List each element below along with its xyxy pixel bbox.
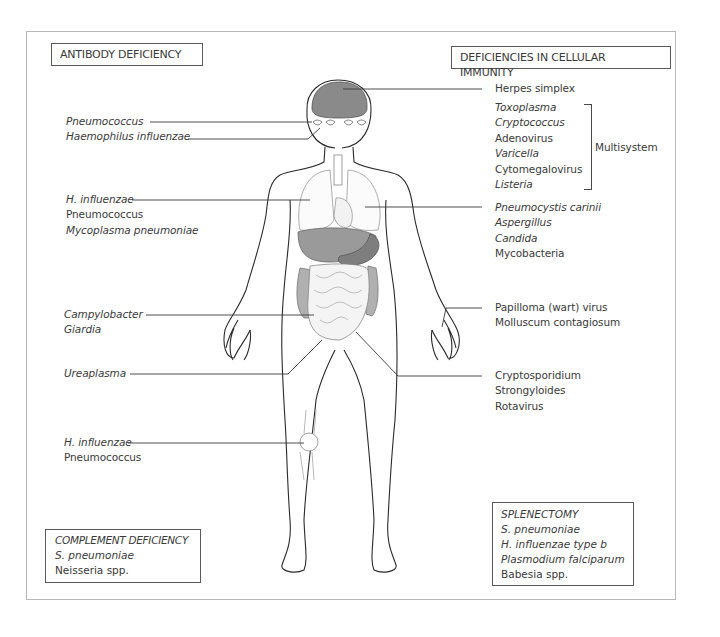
label-group-urogenital: Ureaplasma bbox=[64, 366, 126, 381]
label-mycoplasma-pneumoniae: Mycoplasma pneumoniae bbox=[66, 223, 198, 238]
label-group-multisystem: Toxoplasma Cryptococcus Adenovirus Varic… bbox=[495, 100, 582, 192]
label-group-brain: Herpes simplex bbox=[495, 81, 575, 96]
label-giardia: Giardia bbox=[64, 322, 143, 337]
label-campylobacter: Campylobacter bbox=[64, 307, 143, 322]
label-cryptosporidium: Cryptosporidium bbox=[495, 368, 581, 383]
label-neisseria-spp: Neisseria spp. bbox=[55, 563, 191, 578]
multisystem-text: Multisystem bbox=[595, 140, 658, 155]
label-strongyloides: Strongyloides bbox=[495, 383, 581, 398]
label-multisystem: Multisystem bbox=[595, 140, 658, 155]
splenectomy-box: SPLENECTOMY S. pneumoniae H. influenzae … bbox=[492, 502, 634, 586]
label-group-gut-opportunistic: Cryptosporidium Strongyloides Rotavirus bbox=[495, 368, 581, 414]
label-varicella: Varicella bbox=[495, 146, 582, 161]
label-listeria: Listeria bbox=[495, 177, 582, 192]
label-ureaplasma: Ureaplasma bbox=[64, 366, 126, 381]
label-group-skin: Papilloma (wart) virus Molluscum contagi… bbox=[495, 300, 620, 331]
label-group-joint-infections: H. influenzae Pneumococcus bbox=[64, 435, 141, 466]
label-group-gut-infections: Campylobacter Giardia bbox=[64, 307, 143, 338]
complement-deficiency-title: COMPLEMENT DEFICIENCY bbox=[55, 533, 191, 548]
label-mycobacteria: Mycobacteria bbox=[495, 246, 601, 261]
label-papilloma-virus: Papilloma (wart) virus bbox=[495, 300, 620, 315]
label-s-pneumoniae-splenectomy: S. pneumoniae bbox=[501, 522, 625, 537]
label-herpes-simplex: Herpes simplex bbox=[495, 81, 575, 96]
label-group-lung-opportunistic: Pneumocystis carinii Aspergillus Candida… bbox=[495, 200, 601, 262]
label-plasmodium-falciparum: Plasmodium falciparum bbox=[501, 552, 625, 567]
label-molluscum-contagiosum: Molluscum contagiosum bbox=[495, 315, 620, 330]
label-group-lung-infections: H. influenzae Pneumococcus Mycoplasma pn… bbox=[66, 192, 198, 238]
label-toxoplasma: Toxoplasma bbox=[495, 100, 582, 115]
label-adenovirus: Adenovirus bbox=[495, 131, 582, 146]
trachea bbox=[334, 155, 342, 185]
label-h-influenzae-type-b: H. influenzae type b bbox=[501, 537, 625, 552]
complement-deficiency-box: COMPLEMENT DEFICIENCY S. pneumoniae Neis… bbox=[45, 529, 201, 583]
label-group-head-infections: Pneumococcus Haemophilus influenzae bbox=[66, 114, 190, 145]
label-h-influenzae-joints: H. influenzae bbox=[64, 435, 141, 450]
multisystem-bracket bbox=[584, 104, 592, 190]
label-rotavirus: Rotavirus bbox=[495, 399, 581, 414]
label-cytomegalovirus: Cytomegalovirus bbox=[495, 162, 582, 177]
label-babesia-spp: Babesia spp. bbox=[501, 567, 625, 582]
label-h-influenzae-lungs: H. influenzae bbox=[66, 192, 198, 207]
label-s-pneumoniae-complement: S. pneumoniae bbox=[55, 548, 191, 563]
label-pneumococcus-joints: Pneumococcus bbox=[64, 450, 141, 465]
knee-joint bbox=[300, 433, 318, 451]
label-cryptococcus: Cryptococcus bbox=[495, 115, 582, 130]
label-pneumocystis-carinii: Pneumocystis carinii bbox=[495, 200, 601, 215]
label-candida: Candida bbox=[495, 231, 601, 246]
label-haemophilus-influenzae: Haemophilus influenzae bbox=[66, 129, 190, 144]
label-pneumococcus-head: Pneumococcus bbox=[66, 114, 190, 129]
label-pneumococcus-lungs: Pneumococcus bbox=[66, 207, 198, 222]
leader-lines-left bbox=[128, 122, 322, 443]
splenectomy-title: SPLENECTOMY bbox=[501, 507, 625, 522]
label-aspergillus: Aspergillus bbox=[495, 215, 601, 230]
brain bbox=[312, 82, 367, 118]
sinuses bbox=[313, 120, 366, 125]
